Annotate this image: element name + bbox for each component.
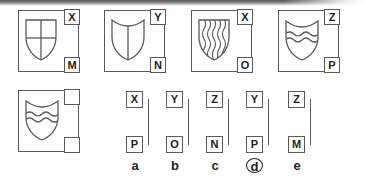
option-a-top-label: X	[126, 91, 143, 108]
option-a-letter[interactable]: a	[124, 159, 146, 172]
answer-option-e[interactable]: Z M	[288, 91, 312, 153]
matrix-panel-3: X O	[191, 10, 252, 72]
option-e-top-label: Z	[288, 91, 305, 108]
matrix-panel-4: Z P	[278, 10, 339, 72]
option-e-bottom-label: M	[288, 136, 305, 153]
option-c-letter[interactable]: c	[204, 159, 226, 172]
option-b-top-label: Y	[166, 91, 183, 108]
option-d-bottom-label: P	[246, 136, 263, 153]
option-a-bottom-label: P	[126, 136, 143, 153]
panel-4-bottom-label: P	[324, 57, 340, 73]
matrix-panel-1: X M	[18, 10, 79, 72]
option-d-top-label: Y	[246, 91, 263, 108]
panel-2-top-label: Y	[150, 9, 166, 25]
question-panel-top-label	[64, 89, 80, 105]
option-connector-line	[148, 99, 149, 145]
panel-4-top-label: Z	[324, 9, 340, 25]
answer-option-a[interactable]: X P	[126, 91, 150, 153]
option-connector-line	[188, 99, 189, 145]
option-connector-line	[268, 99, 269, 145]
question-panel-bottom-label	[64, 137, 80, 153]
scan-artifact-fade	[0, 0, 365, 9]
panel-1-bottom-label: M	[64, 57, 80, 73]
answer-option-c[interactable]: Z N	[206, 91, 230, 153]
option-c-bottom-label: N	[206, 136, 223, 153]
option-e-letter[interactable]: e	[286, 159, 308, 172]
panel-3-top-label: X	[237, 9, 253, 25]
panel-2-bottom-label: N	[150, 57, 166, 73]
answer-option-d[interactable]: Y P	[246, 91, 270, 153]
option-d-letter-selected[interactable]: d	[246, 158, 263, 173]
panel-1-top-label: X	[64, 9, 80, 25]
option-c-top-label: Z	[206, 91, 223, 108]
option-b-letter[interactable]: b	[164, 159, 186, 172]
matrix-panel-2: Y N	[104, 10, 165, 72]
panel-3-bottom-label: O	[237, 57, 253, 73]
option-connector-line	[310, 99, 311, 145]
option-connector-line	[228, 99, 229, 145]
matrix-panel-question	[18, 90, 79, 152]
answer-option-b[interactable]: Y O	[166, 91, 190, 153]
option-b-bottom-label: O	[166, 136, 183, 153]
